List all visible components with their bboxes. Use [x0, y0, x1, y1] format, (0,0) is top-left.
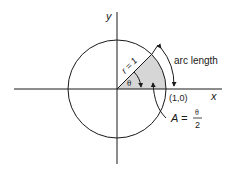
unit-circle-diagram: y x r = 1 θ arc length (1,0) A = θ 2: [0, 0, 234, 172]
area-fraction-denominator: 2: [195, 120, 200, 130]
x-axis-label: x: [210, 90, 217, 102]
area-fraction-numerator: θ: [195, 108, 199, 117]
arc-end-tick: [152, 45, 158, 54]
area-label: A =: [170, 112, 188, 124]
y-axis-label: y: [105, 10, 113, 22]
angle-label: θ: [127, 78, 131, 88]
point-label: (1,0): [169, 93, 188, 103]
arc-length-label: arc length: [174, 55, 218, 66]
